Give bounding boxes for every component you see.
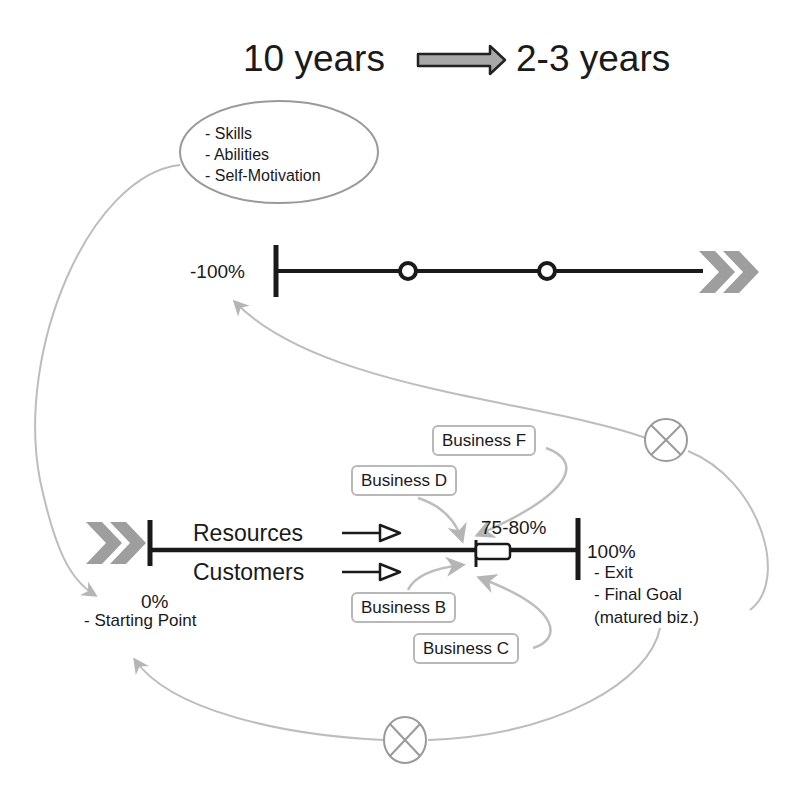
block-right-arrow-icon — [418, 46, 505, 74]
start-note: - Starting Point — [84, 610, 196, 631]
customers-arrow-icon — [342, 564, 400, 580]
business-f-box: Business F — [432, 425, 536, 456]
end-note: - Final Goal — [594, 584, 682, 606]
to-duration: 2-3 years — [516, 40, 670, 77]
target-range-marker — [476, 544, 510, 559]
start-label: 0% — [141, 592, 168, 611]
top-timeline — [276, 245, 703, 297]
business-b-box: Business B — [351, 592, 456, 623]
diagram-canvas — [0, 0, 797, 792]
resources-arrow-icon — [342, 525, 400, 541]
double-chevron-right-icon — [699, 251, 759, 293]
from-duration: 10 years — [243, 40, 385, 77]
end-notes: - Exit - Final Goal — [594, 562, 682, 606]
double-chevron-right-icon — [86, 522, 146, 564]
input-resources: Resources — [193, 522, 303, 545]
business-c-box: Business C — [413, 633, 519, 664]
personal-factors-list: - Skills - Abilities - Self-Motivation — [205, 123, 321, 186]
factor-item: - Skills — [205, 123, 321, 144]
input-customers: Customers — [193, 561, 304, 584]
end-note: (matured biz.) — [594, 607, 699, 628]
factor-item: - Self-Motivation — [205, 165, 321, 186]
top-start-label: -100% — [190, 262, 245, 281]
milestone-marker — [400, 263, 416, 279]
target-label: 75-80% — [481, 518, 547, 537]
end-note: - Exit — [594, 562, 682, 584]
multiply-circle-icon — [645, 419, 687, 461]
multiply-circle-icon — [384, 717, 426, 763]
end-label: 100% — [587, 542, 636, 561]
milestone-marker — [539, 263, 555, 279]
factor-item: - Abilities — [205, 144, 321, 165]
business-d-box: Business D — [351, 465, 457, 496]
